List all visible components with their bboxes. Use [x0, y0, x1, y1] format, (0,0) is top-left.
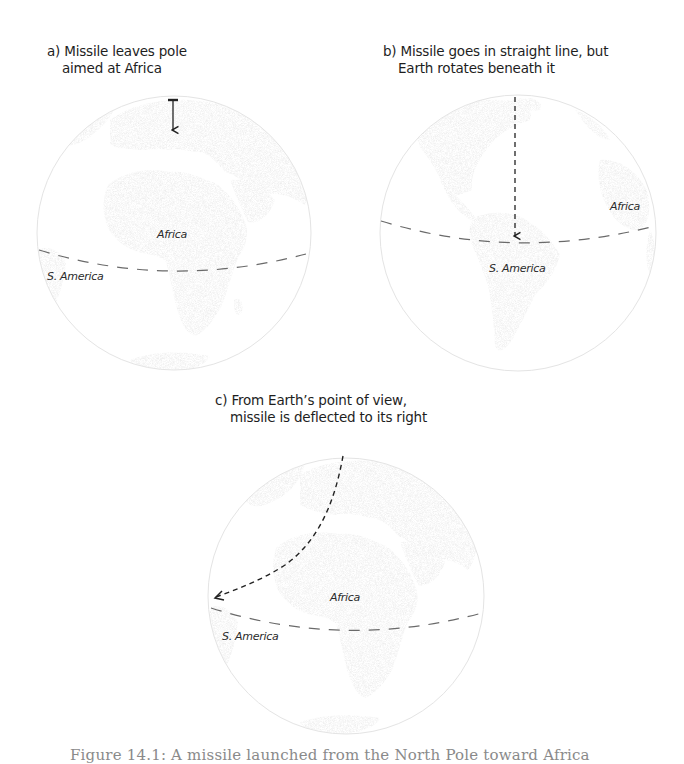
globe-b-label-s-america: S. America	[489, 262, 546, 275]
globe-c-label-africa: Africa	[329, 591, 361, 604]
globe-b: Africa S. America	[380, 95, 656, 371]
figure-caption: Figure 14.1: A missile launched from the…	[70, 746, 670, 764]
globe-a-label-africa: Africa	[156, 228, 188, 241]
globe-c: Africa S. America	[208, 456, 484, 734]
globe-a: Africa S. America	[37, 96, 311, 372]
globe-a-label-s-america: S. America	[47, 270, 104, 283]
globe-b-label-africa: Africa	[609, 200, 641, 213]
globe-c-label-s-america: S. America	[222, 630, 279, 643]
